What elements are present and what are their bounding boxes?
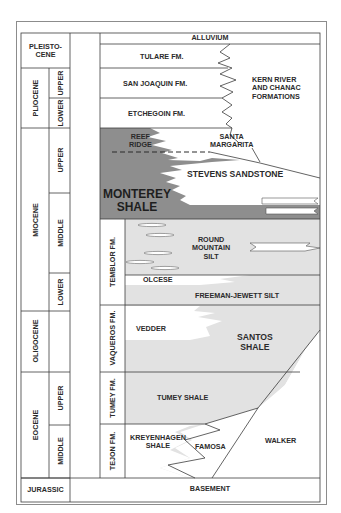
silt-lens <box>138 223 166 226</box>
silt-lens <box>146 233 174 236</box>
epoch-oligocene: OLIGOCENE <box>31 319 40 362</box>
label-line: FORMATIONS <box>252 93 301 101</box>
silt-lens <box>126 260 154 263</box>
santa-margarita-leader <box>252 148 260 162</box>
label-line: SHALE <box>237 343 273 353</box>
label-line: SHALE <box>103 201 171 214</box>
kern-river-boundary <box>218 44 236 128</box>
unit-santa-margarita: SANTA MARGARITA <box>210 133 253 150</box>
formation-tumey: TUMEY FM. <box>108 378 117 417</box>
unit-vedder: VEDDER <box>136 325 166 333</box>
unit-monterey-shale: MONTEREY SHALE <box>103 188 171 214</box>
monterey-lens <box>262 198 318 204</box>
unit-famosa: FAMOSA <box>195 443 226 451</box>
unit-etchegoin: ETCHEGOIN FM. <box>128 110 185 118</box>
epoch-pliocene: PLIOCENE <box>31 80 40 117</box>
unit-freeman-jewett-silt: FREEMAN-JEWETT SILT <box>195 292 279 300</box>
unit-walker: WALKER <box>265 437 296 445</box>
unit-kern-river: KERN RIVER AND CHANAC FORMATIONS <box>252 76 301 101</box>
subepoch-miocene-lower: LOWER <box>56 279 65 306</box>
monterey-lens <box>266 208 318 214</box>
unit-kreyenhagen-shale: KREYENHAGEN SHALE <box>130 434 186 451</box>
unit-santos-shale: SANTOS SHALE <box>237 333 273 353</box>
epoch-miocene: MIOCENE <box>31 203 40 237</box>
silt-lens <box>144 251 172 254</box>
unit-alluvium: ALLUVIUM <box>100 34 320 42</box>
epoch-jurassic: JURASSIC <box>21 486 70 494</box>
subepoch-eocene-middle: MIDDLE <box>56 437 65 465</box>
subepoch-pliocene-upper: UPPER <box>56 71 65 96</box>
unit-tulare: TULARE FM. <box>140 53 184 61</box>
epoch-eocene: EOCENE <box>31 410 40 440</box>
label-line: SHALE <box>130 442 186 450</box>
unit-reef-ridge: REEF RIDGE <box>129 133 152 150</box>
label-line: RIDGE <box>129 141 152 149</box>
unit-stevens-sandstone: STEVENS SANDSTONE <box>187 170 283 180</box>
formation-tejon: TEJON FM. <box>108 432 117 470</box>
subepoch-miocene-middle: MIDDLE <box>56 219 65 247</box>
formation-vaqueros: VAQUEROS FM. <box>108 311 117 366</box>
unit-san-joaquin: SAN JOAQUIN FM. <box>123 80 187 88</box>
epoch-pleistocene: PLEISTO- CENE <box>21 43 70 60</box>
label-line: MARGARITA <box>210 141 253 149</box>
subepoch-eocene-upper: UPPER <box>56 386 65 411</box>
subepoch-pliocene-lower: LOWER <box>56 100 65 127</box>
formation-temblor: TEMBLOR FM. <box>108 237 117 287</box>
epoch-label: CENE <box>21 51 70 59</box>
unit-olcese: OLCESE <box>143 276 173 284</box>
unit-tumey-shale: TUMEY SHALE <box>157 394 208 402</box>
subepoch-miocene-upper: UPPER <box>56 148 65 173</box>
label-line: SILT <box>192 253 230 261</box>
unit-round-mountain-silt: ROUND MOUNTAIN SILT <box>192 236 230 261</box>
silt-lens <box>151 266 179 269</box>
unit-basement: BASEMENT <box>100 485 320 493</box>
